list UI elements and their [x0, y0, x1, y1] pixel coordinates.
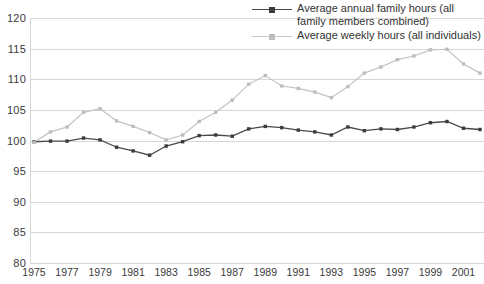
data-point-marker	[98, 107, 101, 110]
data-point-marker	[131, 149, 134, 152]
data-point-marker	[49, 139, 52, 142]
data-point-marker	[313, 130, 316, 133]
data-point-marker	[82, 111, 85, 114]
data-point-marker	[115, 119, 118, 122]
data-point-marker	[197, 120, 200, 123]
data-point-marker	[462, 62, 465, 65]
plot-area	[30, 18, 484, 263]
data-point-marker	[197, 134, 200, 137]
data-point-marker	[412, 54, 415, 57]
y-axis-tick-label: 105	[0, 104, 26, 116]
data-point-marker	[297, 128, 300, 131]
data-point-marker	[445, 120, 448, 123]
data-point-marker	[214, 111, 217, 114]
data-point-marker	[396, 128, 399, 131]
light-line-marker-icon	[252, 31, 292, 43]
x-axis-tick-label: 1975	[22, 266, 45, 278]
data-point-marker	[148, 131, 151, 134]
x-axis-tick-label: 1997	[386, 266, 409, 278]
x-axis-tick-label: 1993	[320, 266, 343, 278]
data-point-marker	[330, 96, 333, 99]
x-axis-tick-label: 1981	[121, 266, 144, 278]
y-axis-tick-label: 110	[0, 73, 26, 85]
data-point-marker	[214, 133, 217, 136]
data-point-marker	[313, 90, 316, 93]
data-point-marker	[330, 133, 333, 136]
data-point-marker	[346, 85, 349, 88]
series-annual-family-hours	[32, 120, 481, 157]
data-point-marker	[247, 82, 250, 85]
data-point-marker	[65, 139, 68, 142]
data-point-marker	[164, 144, 167, 147]
x-axis-tick-label: 1989	[254, 266, 277, 278]
legend-item-weekly-hours: Average weekly hours (all individuals)	[252, 29, 484, 43]
data-point-marker	[429, 121, 432, 124]
line-chart: 12011511010510095908580 1975197719791981…	[0, 0, 484, 284]
y-axis-tick-label: 100	[0, 135, 26, 147]
y-axis-tick-label: 120	[0, 12, 26, 24]
legend-item-label: Average annual family hours (all family …	[292, 2, 484, 27]
data-point-marker	[379, 65, 382, 68]
data-point-marker	[412, 125, 415, 128]
x-axis-tick-label: 1977	[55, 266, 78, 278]
y-axis-tick-label: 115	[0, 43, 26, 55]
data-point-marker	[82, 136, 85, 139]
x-axis-tick-label: 2001	[452, 266, 475, 278]
data-point-marker	[264, 125, 267, 128]
data-point-marker	[379, 127, 382, 130]
data-point-marker	[247, 127, 250, 130]
gridline	[30, 263, 484, 264]
legend-item-label: Average weekly hours (all individuals)	[292, 29, 481, 42]
data-point-marker	[445, 48, 448, 51]
legend-item-annual-family-hours: Average annual family hours (all family …	[252, 2, 484, 27]
data-point-marker	[462, 127, 465, 130]
data-point-marker	[65, 125, 68, 128]
x-axis-tick-label: 1983	[154, 266, 177, 278]
data-point-marker	[115, 146, 118, 149]
data-point-marker	[346, 125, 349, 128]
data-point-marker	[164, 138, 167, 141]
x-axis: 1975197719791981198319851987198919911993…	[30, 266, 484, 284]
data-point-marker	[231, 98, 234, 101]
data-point-marker	[181, 140, 184, 143]
data-point-marker	[231, 135, 234, 138]
data-point-marker	[280, 84, 283, 87]
y-axis-tick-label: 95	[0, 165, 26, 177]
data-point-marker	[297, 87, 300, 90]
x-axis-tick-label: 1987	[221, 266, 244, 278]
x-axis-tick-label: 1991	[287, 266, 310, 278]
data-point-marker	[280, 126, 283, 129]
x-axis-tick-label: 1999	[419, 266, 442, 278]
x-axis-tick-label: 1995	[353, 266, 376, 278]
series-weekly-hours	[32, 48, 481, 145]
data-point-marker	[148, 154, 151, 157]
y-axis-tick-label: 85	[0, 226, 26, 238]
data-point-marker	[363, 71, 366, 74]
x-axis-tick-label: 1985	[188, 266, 211, 278]
data-point-marker	[131, 125, 134, 128]
y-axis: 12011511010510095908580	[0, 18, 30, 263]
data-point-marker	[32, 141, 35, 144]
series-layer	[30, 18, 484, 263]
data-point-marker	[264, 74, 267, 77]
dark-line-marker-icon	[252, 4, 292, 16]
x-axis-tick-label: 1979	[88, 266, 111, 278]
data-point-marker	[49, 130, 52, 133]
data-point-marker	[478, 128, 481, 131]
data-point-marker	[396, 58, 399, 61]
data-point-marker	[429, 48, 432, 51]
data-point-marker	[478, 71, 481, 74]
data-point-marker	[363, 129, 366, 132]
data-point-marker	[181, 133, 184, 136]
data-point-marker	[98, 138, 101, 141]
y-axis-tick-label: 90	[0, 196, 26, 208]
chart-legend: Average annual family hours (all family …	[252, 2, 484, 45]
